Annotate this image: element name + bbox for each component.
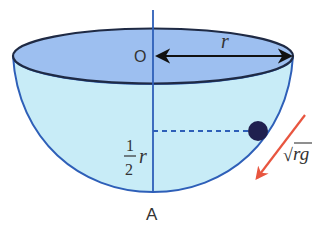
- bottom-label-A: A: [146, 205, 158, 224]
- particle: [248, 121, 268, 141]
- fraction-denominator: 2: [125, 161, 133, 178]
- radius-label: r: [221, 30, 229, 52]
- height-variable-r: r: [139, 145, 147, 167]
- fraction-numerator: 1: [126, 137, 134, 154]
- velocity-expression: rg: [293, 143, 309, 164]
- center-label-O: O: [134, 48, 146, 65]
- bowl-diagram: O r A 1 2 r √ rg: [0, 0, 332, 235]
- diagram-canvas: O r A 1 2 r √ rg: [0, 0, 332, 235]
- velocity-radical: √: [283, 145, 293, 165]
